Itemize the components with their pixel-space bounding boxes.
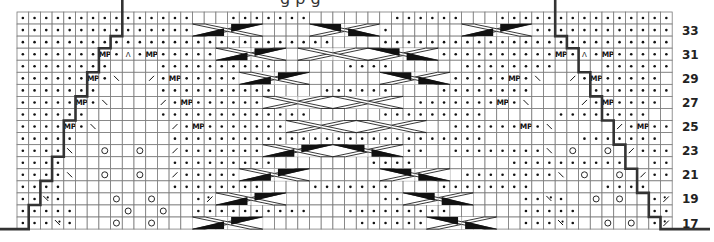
- purl-dot-icon: [595, 41, 598, 44]
- purl-dot-icon: [115, 29, 118, 32]
- purl-dot-icon: [653, 198, 656, 201]
- chart-cell: [146, 60, 158, 72]
- purl-dot-icon: [68, 29, 71, 32]
- purl-dot-icon: [501, 77, 504, 80]
- purl-dot-icon: [209, 174, 212, 177]
- purl-dot-icon: [103, 41, 106, 44]
- purl-dot-icon: [103, 29, 106, 32]
- purl-dot-icon: [536, 125, 539, 128]
- chart-cell: [450, 169, 462, 181]
- chart-cell: [310, 217, 322, 229]
- chart-cell: [169, 205, 181, 217]
- purl-dot-icon: [466, 65, 469, 68]
- chart-cell: [462, 205, 474, 217]
- purl-dot-icon: [501, 89, 504, 92]
- make-purl-symbol: MP: [169, 74, 182, 83]
- chart-cell: [356, 193, 368, 205]
- purl-dot-icon: [220, 101, 223, 104]
- chart-cell: [321, 157, 333, 169]
- purl-dot-icon: [232, 186, 235, 189]
- purl-dot-icon: [256, 41, 259, 44]
- chart-cell: [427, 157, 439, 169]
- make-purl-symbol: MP: [87, 74, 100, 83]
- purl-dot-icon: [642, 65, 645, 68]
- chart-cell: [544, 84, 556, 96]
- purl-dot-icon: [478, 125, 481, 128]
- purl-dot-icon: [536, 210, 539, 213]
- chart-cell: [99, 217, 111, 229]
- chart-cell: [403, 181, 415, 193]
- purl-dot-icon: [454, 101, 457, 104]
- chart-cell: [661, 72, 673, 84]
- purl-dot-icon: [22, 186, 25, 189]
- purl-dot-icon: [490, 65, 493, 68]
- purl-dot-icon: [618, 186, 621, 189]
- purl-dot-icon: [607, 29, 610, 32]
- purl-dot-icon: [419, 41, 422, 44]
- purl-dot-icon: [256, 125, 259, 128]
- purl-dot-icon: [653, 174, 656, 177]
- chart-cell: [473, 157, 485, 169]
- chart-title-fragment: g p g: [280, 0, 321, 8]
- purl-dot-icon: [57, 29, 60, 32]
- chart-cell: [473, 205, 485, 217]
- purl-dot-icon: [232, 174, 235, 177]
- chart-cell: [485, 193, 497, 205]
- purl-dot-icon: [57, 53, 60, 56]
- chart-cell: [345, 169, 357, 181]
- chart-cell: [333, 157, 345, 169]
- purl-dot-icon: [373, 222, 376, 225]
- purl-dot-icon: [185, 149, 188, 152]
- purl-dot-icon: [525, 210, 528, 213]
- chart-cell: [286, 157, 298, 169]
- purl-dot-icon: [478, 186, 481, 189]
- chart-cell: [555, 121, 567, 133]
- chart-cell: [87, 145, 99, 157]
- chart-cell: [649, 181, 661, 193]
- purl-dot-icon: [57, 41, 60, 44]
- purl-dot-icon: [653, 149, 656, 152]
- purl-dot-icon: [279, 17, 282, 20]
- purl-dot-icon: [501, 53, 504, 56]
- purl-dot-icon: [408, 137, 411, 140]
- chart-cell: [274, 24, 286, 36]
- chart-cell: [99, 157, 111, 169]
- purl-dot-icon: [256, 65, 259, 68]
- purl-dot-icon: [466, 186, 469, 189]
- purl-dot-icon: [408, 161, 411, 164]
- chart-cell: [76, 217, 88, 229]
- chart-cell: [157, 133, 169, 145]
- chart-cell: [87, 217, 99, 229]
- purl-dot-icon: [607, 41, 610, 44]
- make-purl-symbol: MP: [64, 122, 77, 131]
- purl-dot-icon: [174, 65, 177, 68]
- purl-dot-icon: [384, 65, 387, 68]
- chart-cell: [310, 169, 322, 181]
- chart-cell: [532, 133, 544, 145]
- purl-dot-icon: [80, 29, 83, 32]
- chart-cell: [415, 60, 427, 72]
- purl-dot-icon: [384, 113, 387, 116]
- purl-dot-icon: [45, 101, 48, 104]
- chart-cell: [614, 145, 626, 157]
- purl-dot-icon: [33, 89, 36, 92]
- cable-cross: [216, 193, 286, 205]
- purl-dot-icon: [33, 161, 36, 164]
- purl-dot-icon: [583, 17, 586, 20]
- purl-dot-icon: [431, 17, 434, 20]
- purl-dot-icon: [361, 210, 364, 213]
- chart-cell: [497, 133, 509, 145]
- chart-cell: [134, 169, 146, 181]
- purl-dot-icon: [291, 113, 294, 116]
- purl-dot-icon: [384, 29, 387, 32]
- purl-dot-icon: [80, 53, 83, 56]
- purl-dot-icon: [642, 89, 645, 92]
- purl-dot-icon: [174, 41, 177, 44]
- chart-cell: [216, 12, 228, 24]
- chart-cell: [157, 193, 169, 205]
- chart-cell: [485, 205, 497, 217]
- purl-dot-icon: [536, 53, 539, 56]
- purl-dot-icon: [256, 149, 259, 152]
- purl-dot-icon: [232, 77, 235, 80]
- purl-dot-icon: [630, 41, 633, 44]
